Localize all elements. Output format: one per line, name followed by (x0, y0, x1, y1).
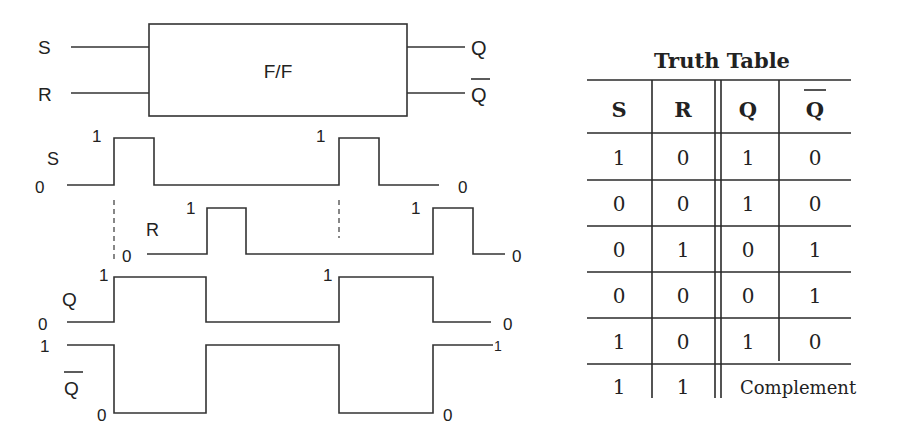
s-start-level: 0 (35, 178, 44, 197)
cell-qbar: 1 (809, 284, 822, 308)
cell-q: 1 (742, 330, 755, 354)
table-row: 0 0 0 1 (613, 284, 822, 308)
s-waveform (67, 138, 439, 185)
r-pulse1-level: 1 (186, 199, 195, 218)
cell-s: 0 (613, 284, 626, 308)
header-qbar: Q (806, 97, 824, 122)
header-q: Q (739, 97, 757, 122)
cell-r: 1 (677, 238, 690, 262)
cell-s: 1 (613, 330, 626, 354)
cell-r: 1 (677, 375, 690, 399)
q-waveform (67, 277, 491, 322)
table-row: 1 1 Complement (613, 375, 857, 399)
cell-r: 0 (677, 146, 690, 170)
cell-complement: Complement (740, 377, 857, 398)
r-signal-label: R (146, 220, 159, 240)
s-signal-label: S (47, 149, 59, 169)
table-row: 0 1 0 1 (613, 238, 822, 262)
q-pulse2-level: 1 (323, 266, 332, 285)
s-end-level: 0 (458, 178, 467, 197)
qbar-low1-level: 0 (97, 406, 106, 425)
flip-flop-label: F/F (264, 61, 293, 82)
s-pulse1-level: 1 (92, 127, 101, 146)
r-pulse2-level: 1 (411, 199, 420, 218)
header-s: S (611, 97, 626, 122)
r-end-level: 0 (512, 247, 521, 266)
cell-s: 1 (613, 146, 626, 170)
cell-q: 0 (742, 238, 755, 262)
cell-s: 1 (613, 375, 626, 399)
q-end-level: 0 (503, 315, 512, 334)
sr-flip-flop-diagram: F/F S R Q Q S 0 1 1 0 R 0 1 1 0 Q 0 1 1 (0, 0, 923, 445)
table-row: 1 0 1 0 (613, 330, 822, 354)
table-row: 0 0 1 0 (613, 192, 822, 216)
cell-r: 0 (677, 192, 690, 216)
q-output-label: Q (471, 37, 487, 59)
qbar-output-label: Q (471, 84, 487, 106)
q-signal-label: Q (62, 289, 77, 310)
cell-r: 0 (677, 284, 690, 308)
qbar-signal-label: Q (64, 378, 79, 399)
truth-table-title: Truth Table (654, 48, 790, 73)
r-start-level: 0 (122, 247, 131, 266)
q-pulse1-level: 1 (99, 266, 108, 285)
cell-qbar: 1 (809, 238, 822, 262)
r-input-label: R (38, 84, 52, 105)
cell-q: 1 (742, 146, 755, 170)
cell-q: 1 (742, 192, 755, 216)
qbar-low2-level: 0 (443, 406, 452, 425)
qbar-end-level: 1 (494, 338, 502, 354)
cell-q: 0 (742, 284, 755, 308)
cell-qbar: 0 (809, 146, 822, 170)
cell-r: 0 (677, 330, 690, 354)
header-r: R (674, 97, 692, 122)
cell-qbar: 0 (809, 192, 822, 216)
s-pulse2-level: 1 (316, 127, 325, 146)
cell-s: 0 (613, 192, 626, 216)
cell-qbar: 0 (809, 330, 822, 354)
q-start-level: 0 (38, 315, 47, 334)
s-input-label: S (38, 37, 51, 58)
table-row: 1 0 1 0 (613, 146, 822, 170)
timing-diagram: S 0 1 1 0 R 0 1 1 0 Q 0 1 1 0 Q 1 0 0 1 (35, 127, 521, 425)
qbar-start-level: 1 (40, 337, 49, 356)
qbar-waveform (67, 345, 493, 413)
flip-flop-block: F/F S R Q Q (38, 24, 490, 116)
r-waveform (147, 208, 505, 254)
cell-s: 0 (613, 238, 626, 262)
truth-table: Truth Table S R Q Q 1 0 1 0 0 0 1 (587, 48, 857, 399)
